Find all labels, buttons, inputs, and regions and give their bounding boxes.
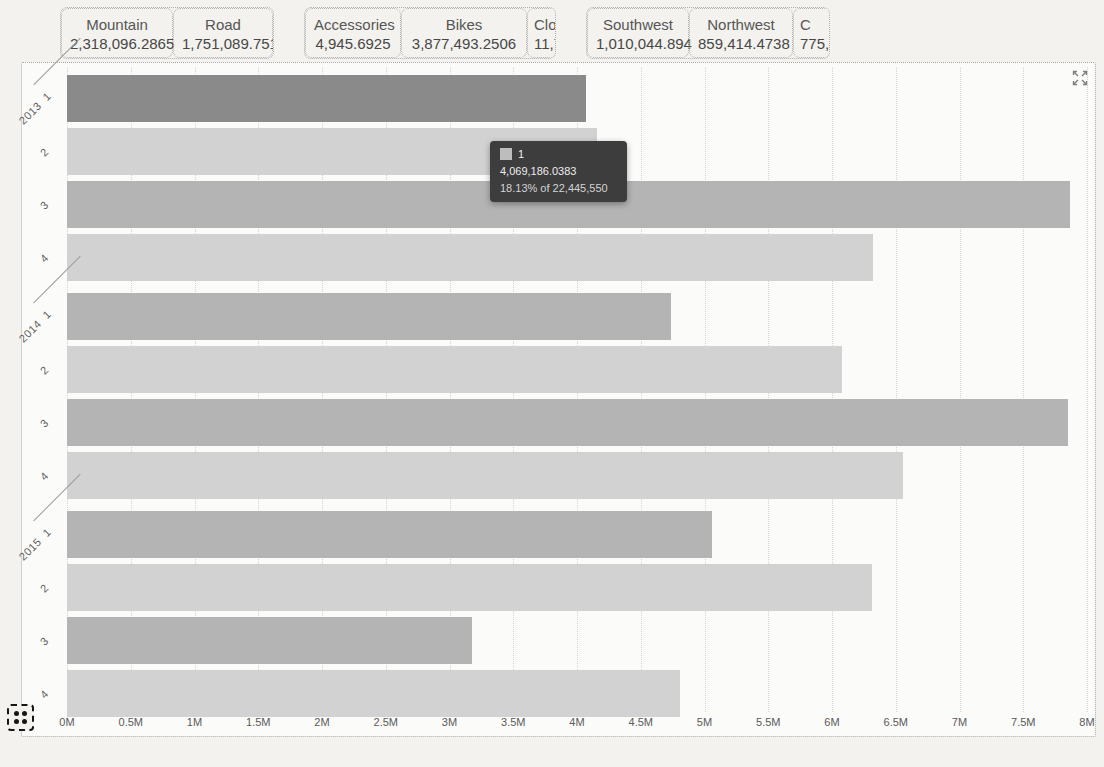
x-tick-6M: 6M: [824, 716, 839, 728]
bar-2014-q3[interactable]: [67, 399, 1068, 446]
bar-2014-q1[interactable]: [67, 293, 671, 340]
filter-card-c[interactable]: C775,: [793, 8, 830, 58]
filter-group-category: Accessories4,945.6925Bikes3,877,493.2506…: [304, 7, 556, 59]
filter-card-label: Mountain: [70, 16, 164, 33]
x-axis: 0M0.5M1M1.5M2M2.5M3M3.5M4M4.5M5M5.5M6M6.…: [22, 716, 1095, 734]
x-tick-1M: 1M: [187, 716, 202, 728]
bar-2014-q4[interactable]: [67, 452, 903, 499]
bar-row-2015-q1: 2015 1: [22, 511, 1095, 558]
x-tick-3M: 3M: [442, 716, 457, 728]
x-tick-3.5M: 3.5M: [501, 716, 525, 728]
filter-card-value: 859,414.4738: [698, 35, 784, 52]
y-axis-label: 2: [22, 128, 67, 175]
x-tick-6.5M: 6.5M: [884, 716, 908, 728]
bar-row-2015-q2: 2: [22, 564, 1095, 611]
y-axis-label: 2: [22, 346, 67, 393]
dashboard-page: Mountain2,318,096.2865Road1,751,089.7518…: [0, 0, 1104, 767]
bar-row-2014-q2: 2: [22, 346, 1095, 393]
bar-row-2014-q3: 3: [22, 399, 1095, 446]
y-axis-label: 4: [22, 452, 67, 499]
filter-group-subcategory: Mountain2,318,096.2865Road1,751,089.7518: [60, 7, 274, 59]
tooltip-series-row: 1: [500, 148, 617, 160]
grid-toggle-button[interactable]: [7, 704, 34, 731]
y-axis-label: 2013 1: [22, 75, 67, 122]
grid-toggle-icon: [22, 719, 27, 724]
filter-card-road[interactable]: Road1,751,089.7518: [173, 8, 273, 58]
bar-2015-q2[interactable]: [67, 564, 872, 611]
bar-2013-q1-highlighted[interactable]: [67, 75, 586, 122]
bar-2014-q2[interactable]: [67, 346, 842, 393]
year-quarter-label: 2015 1: [17, 525, 54, 562]
tooltip-percent: 18.13% of 22,445,550: [500, 182, 617, 194]
y-axis-label: 3: [22, 617, 67, 664]
quarter-label: 2: [38, 581, 51, 594]
x-tick-0.5M: 0.5M: [119, 716, 143, 728]
grid-toggle-icon: [14, 711, 19, 716]
filter-card-label: Southwest: [596, 16, 680, 33]
filter-card-label: C: [800, 16, 830, 33]
quarter-label: 3: [38, 198, 51, 211]
filter-card-value: 4,945.6925: [314, 35, 392, 52]
filter-card-value: 11,76: [534, 35, 556, 52]
expand-icon: [1070, 74, 1090, 91]
y-axis-label: 3: [22, 181, 67, 228]
filter-card-southwest[interactable]: Southwest1,010,044.894: [587, 8, 689, 58]
y-axis-label: 4: [22, 234, 67, 281]
quarter-label: 4: [38, 687, 51, 700]
quarter-label: 2: [38, 363, 51, 376]
bar-row-2015-q3: 3: [22, 617, 1095, 664]
x-tick-2.5M: 2.5M: [374, 716, 398, 728]
grid-toggle-icon: [22, 711, 27, 716]
filter-card-label: Road: [182, 16, 264, 33]
filter-card-northwest[interactable]: Northwest859,414.4738: [689, 8, 793, 58]
y-axis-label: 3: [22, 399, 67, 446]
x-tick-2M: 2M: [314, 716, 329, 728]
tooltip-value: 4,069,186.0383: [500, 165, 617, 177]
bar-row-2014-q1: 2014 1: [22, 293, 1095, 340]
filter-card-value: 2,318,096.2865: [70, 35, 164, 52]
maximize-item-button[interactable]: [1070, 68, 1090, 88]
x-tick-8M: 8M: [1079, 716, 1094, 728]
filter-card-label: Northwest: [698, 16, 784, 33]
y-axis-label: 2014 1: [22, 293, 67, 340]
x-tick-7M: 7M: [952, 716, 967, 728]
filter-group-region: Southwest1,010,044.894Northwest859,414.4…: [586, 7, 830, 59]
y-axis-label: 2015 1: [22, 511, 67, 558]
quarter-label: 4: [38, 251, 51, 264]
grid-toggle-icon: [14, 719, 19, 724]
bar-2015-q4[interactable]: [67, 670, 680, 717]
x-tick-7.5M: 7.5M: [1011, 716, 1035, 728]
year-group-2015: 2015 1234: [22, 511, 1095, 717]
quarter-label: 4: [38, 469, 51, 482]
year-group-2014: 2014 1234: [22, 293, 1095, 499]
quarter-label: 3: [38, 416, 51, 429]
bar-row-2013-q4: 4: [22, 234, 1095, 281]
filter-card-label: Accessories: [314, 16, 392, 33]
bar-tooltip: 1 4,069,186.0383 18.13% of 22,445,550: [490, 141, 627, 202]
filter-card-value: 3,877,493.2506: [410, 35, 518, 52]
filter-card-row: Mountain2,318,096.2865Road1,751,089.7518…: [60, 7, 830, 59]
x-tick-0M: 0M: [59, 716, 74, 728]
x-tick-5M: 5M: [697, 716, 712, 728]
x-tick-5.5M: 5.5M: [756, 716, 780, 728]
tooltip-series-label: 1: [518, 148, 524, 160]
filter-card-accessories[interactable]: Accessories4,945.6925: [305, 8, 401, 58]
bar-2015-q3[interactable]: [67, 617, 472, 664]
quarter-label: 2: [38, 145, 51, 158]
bar-row-2013-q1: 2013 1: [22, 75, 1095, 122]
quarter-label: 3: [38, 634, 51, 647]
filter-card-mountain[interactable]: Mountain2,318,096.2865: [61, 8, 173, 58]
y-axis-label: 2: [22, 564, 67, 611]
bar-2013-q4[interactable]: [67, 234, 873, 281]
series-marker-icon: [500, 148, 512, 160]
x-tick-4.5M: 4.5M: [629, 716, 653, 728]
filter-card-label: Bikes: [410, 16, 518, 33]
year-quarter-label: 2013 1: [17, 89, 54, 126]
x-tick-4M: 4M: [569, 716, 584, 728]
bar-row-2015-q4: 4: [22, 670, 1095, 717]
bar-2015-q1[interactable]: [67, 511, 712, 558]
filter-card-bikes[interactable]: Bikes3,877,493.2506: [401, 8, 527, 58]
filter-card-clo[interactable]: Clo11,76: [527, 8, 556, 58]
filter-card-value: 1,751,089.7518: [182, 35, 264, 52]
filter-card-value: 1,010,044.894: [596, 35, 680, 52]
